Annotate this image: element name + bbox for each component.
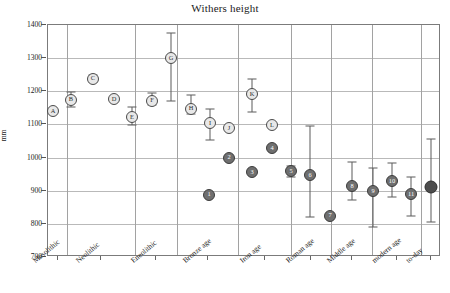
data-point[interactable]: 9 [367, 185, 379, 197]
data-point[interactable]: E [126, 111, 138, 123]
data-point-marker[interactable]: 8 [346, 180, 358, 192]
x-axis: MesolithicNeolithicEneolithicBronze ageI… [0, 256, 450, 293]
data-point[interactable]: 6 [304, 169, 316, 181]
x-tick-mark [310, 256, 311, 260]
data-point[interactable]: 10 [386, 175, 398, 187]
error-bar-cap [128, 107, 137, 108]
y-tick-label: 1100 [27, 119, 42, 128]
x-tick-mark [100, 256, 101, 260]
error-bar-cap [206, 108, 215, 109]
data-point[interactable]: F [146, 95, 158, 107]
plot-area: ABCDEFGHIJ21KL43567891011 [47, 24, 440, 256]
data-point[interactable]: 4 [266, 142, 278, 154]
data-point-marker[interactable]: 6 [304, 169, 316, 181]
data-point-marker[interactable]: J [223, 122, 235, 134]
data-point-marker[interactable]: L [266, 119, 278, 131]
data-point[interactable]: 8 [346, 180, 358, 192]
data-point[interactable]: K [246, 88, 258, 100]
data-point-marker[interactable]: 2 [223, 152, 235, 164]
data-point-marker[interactable]: 5 [285, 165, 297, 177]
data-point-marker[interactable]: G [165, 52, 177, 64]
error-bar-cap [248, 78, 257, 79]
data-point[interactable]: 7 [324, 210, 336, 222]
x-tick-mark [396, 256, 397, 260]
data-point-marker[interactable]: 7 [324, 210, 336, 222]
data-point[interactable]: 5 [285, 165, 297, 177]
error-bar-cap [427, 222, 436, 223]
data-point-marker[interactable]: I [204, 117, 216, 129]
x-tick-mark [207, 256, 208, 260]
data-point[interactable]: J [223, 122, 235, 134]
data-point[interactable]: H [185, 103, 197, 115]
gridline-vertical [291, 25, 292, 255]
x-tick-mark [155, 256, 156, 260]
data-point-marker[interactable]: C [87, 73, 99, 85]
y-tick-label: 1200 [27, 86, 42, 95]
y-tick-label: 1000 [27, 152, 42, 161]
data-point[interactable]: G [165, 52, 177, 64]
data-point-marker[interactable]: 10 [386, 175, 398, 187]
error-bar-cap [348, 161, 357, 162]
y-tick-mark [41, 24, 46, 25]
data-point-marker[interactable]: 4 [266, 142, 278, 154]
data-point-marker[interactable] [425, 180, 438, 193]
data-point-marker[interactable]: 11 [405, 188, 417, 200]
data-point[interactable]: C [87, 73, 99, 85]
y-tick-mark [41, 190, 46, 191]
gridline-horizontal [48, 158, 439, 159]
x-tick-mark [430, 256, 431, 260]
gridline-vertical [421, 25, 422, 255]
y-tick-mark [41, 123, 46, 124]
data-point[interactable]: D [108, 93, 120, 105]
data-point[interactable]: A [47, 105, 59, 117]
gridline-horizontal [48, 224, 439, 225]
error-bar-cap [167, 33, 176, 34]
error-bar-cap [348, 199, 357, 200]
error-bar-cap [167, 101, 176, 102]
error-bar-cap [427, 139, 436, 140]
y-axis: 14001300120011001000900800700 [0, 24, 45, 256]
y-tick-mark [41, 57, 46, 58]
data-point[interactable]: 1 [203, 189, 215, 201]
data-point[interactable] [425, 180, 438, 193]
data-point-marker[interactable]: K [246, 88, 258, 100]
data-point-marker[interactable]: B [65, 94, 77, 106]
gridline-horizontal [48, 58, 439, 59]
gridline-vertical [177, 25, 178, 255]
error-bar-cap [306, 216, 315, 217]
data-point-marker[interactable]: 1 [203, 189, 215, 201]
data-point[interactable]: 2 [223, 152, 235, 164]
gridline-vertical [67, 25, 68, 255]
y-tick-mark [41, 90, 46, 91]
error-bar-cap [148, 92, 157, 93]
error-bar [373, 168, 374, 226]
data-point-marker[interactable]: 9 [367, 185, 379, 197]
data-point-marker[interactable]: D [108, 93, 120, 105]
y-tick-label: 1300 [27, 53, 42, 62]
data-point-marker[interactable]: E [126, 111, 138, 123]
data-point-marker[interactable]: H [185, 103, 197, 115]
data-point[interactable]: B [65, 94, 77, 106]
gridline-horizontal [48, 91, 439, 92]
error-bar-cap [369, 226, 378, 227]
error-bar-cap [206, 140, 215, 141]
y-tick-mark [41, 157, 46, 158]
error-bar-cap [67, 107, 76, 108]
error-bar [171, 33, 172, 101]
data-point-marker[interactable]: F [146, 95, 158, 107]
error-bar-cap [369, 168, 378, 169]
data-point[interactable]: 3 [246, 166, 258, 178]
data-point[interactable]: 11 [405, 188, 417, 200]
chart-title: Withers height [0, 2, 450, 14]
x-tick-mark [57, 256, 58, 260]
data-point[interactable]: L [266, 119, 278, 131]
chart-figure: Withers height mm 1400130012001100100090… [0, 0, 450, 293]
y-tick-mark [41, 223, 46, 224]
x-tick-mark [264, 256, 265, 260]
error-bar-cap [287, 177, 296, 178]
data-point-marker[interactable]: 3 [246, 166, 258, 178]
error-bar-cap [187, 94, 196, 95]
gridline-vertical [135, 25, 136, 255]
data-point[interactable]: I [204, 117, 216, 129]
data-point-marker[interactable]: A [47, 105, 59, 117]
